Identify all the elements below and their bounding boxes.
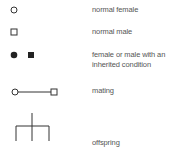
label-normal-female: normal female [92, 5, 138, 15]
pedigree-symbols [0, 0, 184, 159]
label-offspring: offspring [92, 138, 120, 148]
label-affected-line1: female or male with an [92, 50, 165, 60]
offspring-icon [16, 113, 49, 141]
normal-female-icon [11, 7, 17, 13]
label-affected-line2: inherited condition [92, 60, 151, 70]
affected-female-icon [11, 52, 18, 59]
label-normal-male: normal male [92, 27, 132, 37]
mating-icon [12, 89, 57, 95]
normal-male-icon [11, 29, 17, 35]
label-mating: mating [92, 86, 114, 96]
affected-male-icon [28, 52, 34, 58]
